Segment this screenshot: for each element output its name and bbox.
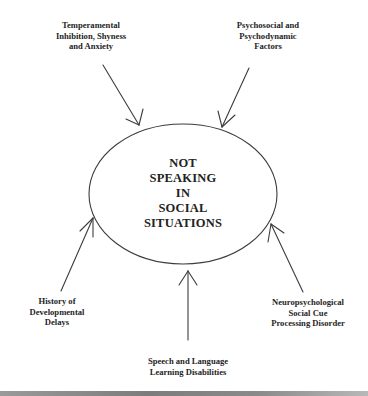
arrow-psychosocial — [218, 68, 249, 127]
bottom-border — [0, 391, 368, 396]
factor-speech-language: Speech and Language Learning Disabilitie… — [128, 356, 248, 377]
factor-psychosocial: Psychosocial and Psychodynamic Factors — [220, 20, 316, 52]
factor-developmental: History of Developmental Delays — [24, 296, 90, 328]
factor-neuropsychological: Neuropsychological Social Cue Processing… — [260, 297, 356, 329]
arrow-speech-language — [179, 271, 197, 340]
arrow-neuropsychological — [268, 224, 303, 292]
arrow-developmental — [61, 218, 93, 291]
factor-temperamental: Temperamental Inhibition, Shyness and An… — [40, 20, 142, 52]
arrow-temperamental — [103, 65, 143, 125]
center-label: NOT SPEAKING IN SOCIAL SITUATIONS — [123, 156, 243, 231]
